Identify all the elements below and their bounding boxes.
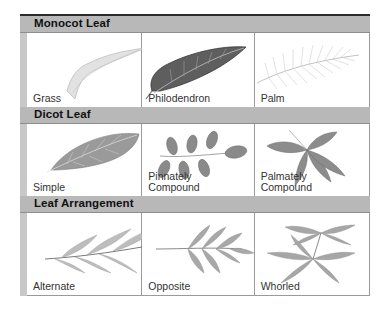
section-title: Monocot Leaf bbox=[34, 17, 110, 29]
leaf-types-table: Monocot Leaf Grass Philodendron bbox=[20, 14, 370, 296]
section-title: Leaf Arrangement bbox=[34, 197, 134, 209]
item-label: Grass bbox=[33, 93, 61, 104]
cell-palm: Palm bbox=[255, 33, 370, 107]
cell-palmately-compound: Palmately Compound bbox=[255, 124, 370, 196]
section-header-monocot: Monocot Leaf bbox=[20, 16, 370, 33]
section-row-dicot: Simple Pinnately Compound bbox=[20, 124, 370, 196]
item-label: Opposite bbox=[148, 281, 190, 292]
item-label: Pinnately Compound bbox=[148, 171, 199, 193]
cell-whorled: Whorled bbox=[255, 213, 370, 296]
cell-philodendron: Philodendron bbox=[142, 33, 254, 107]
label-line-2: Compound bbox=[148, 181, 199, 193]
cell-opposite: Opposite bbox=[142, 213, 254, 296]
section-header-dicot: Dicot Leaf bbox=[20, 107, 370, 124]
section-row-monocot: Grass Philodendron Palm bbox=[20, 33, 370, 107]
cell-simple: Simple bbox=[27, 124, 142, 196]
section-header-leaf-arrangement: Leaf Arrangement bbox=[20, 196, 370, 213]
section-title: Dicot Leaf bbox=[34, 108, 91, 120]
cell-grass: Grass bbox=[27, 33, 142, 107]
item-label: Whorled bbox=[261, 281, 300, 292]
cell-pinnately-compound: Pinnately Compound bbox=[142, 124, 254, 196]
label-line-2: Compound bbox=[261, 181, 312, 193]
item-label: Philodendron bbox=[148, 93, 210, 104]
section-row-leaf-arrangement: Alternate Opposite bbox=[20, 213, 370, 296]
cell-alternate: Alternate bbox=[27, 213, 142, 296]
item-label: Palm bbox=[261, 93, 285, 104]
item-label: Simple bbox=[33, 182, 65, 193]
item-label: Alternate bbox=[33, 281, 75, 292]
item-label: Palmately Compound bbox=[261, 171, 312, 193]
